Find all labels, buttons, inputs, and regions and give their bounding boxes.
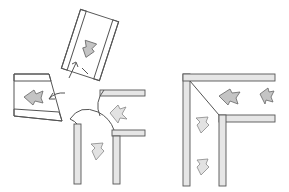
- left-arrow-icon: [219, 89, 240, 105]
- left-arrow-icon: [260, 88, 274, 104]
- down-arrow-outline-icon: [196, 117, 209, 133]
- left-panel: [14, 74, 62, 121]
- exploded-corner: [14, 9, 145, 184]
- left-arrow-outline-icon: [110, 105, 127, 123]
- fold-arrow-icon: [49, 93, 65, 99]
- horizontal-duct: [98, 90, 145, 136]
- insert-arrow-icon: [69, 62, 78, 78]
- down-arrow-outline-icon: [197, 159, 209, 175]
- down-arrow-outline-icon: [91, 143, 104, 160]
- duct-corner-diagram: [0, 0, 289, 192]
- diagonal-seam: [190, 81, 219, 115]
- left-arrow-icon: [24, 90, 43, 105]
- assembled-corner: [183, 74, 275, 186]
- top-panel: [61, 9, 118, 80]
- down-arrow-icon: [80, 40, 96, 59]
